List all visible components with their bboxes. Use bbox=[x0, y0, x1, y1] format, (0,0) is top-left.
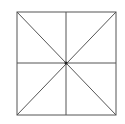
center-point bbox=[65, 62, 68, 65]
square-diagram bbox=[0, 0, 125, 124]
